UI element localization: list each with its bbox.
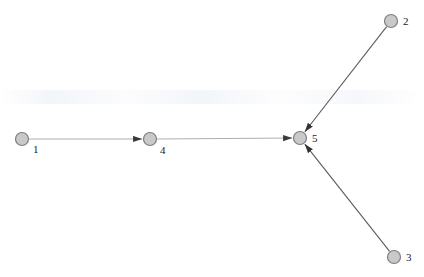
graph-edge-3-to-5 xyxy=(305,144,390,251)
graph-node-label-1: 1 xyxy=(33,143,39,155)
graph-svg: 12345 xyxy=(0,0,424,277)
graph-node-5[interactable] xyxy=(294,132,307,145)
graph-node-label-3: 3 xyxy=(406,251,412,263)
graph-node-3[interactable] xyxy=(388,251,401,264)
graph-node-1[interactable] xyxy=(16,133,29,146)
graph-node-4[interactable] xyxy=(144,133,157,146)
graph-edge-2-to-5 xyxy=(305,27,387,132)
graph-edge-4-to-5 xyxy=(157,138,292,139)
graph-node-label-4: 4 xyxy=(160,144,166,156)
graph-node-2[interactable] xyxy=(385,15,398,28)
graph-canvas: 12345 xyxy=(0,0,424,277)
edge-layer xyxy=(29,27,390,252)
graph-node-label-2: 2 xyxy=(403,15,409,27)
graph-node-label-5: 5 xyxy=(312,132,318,144)
